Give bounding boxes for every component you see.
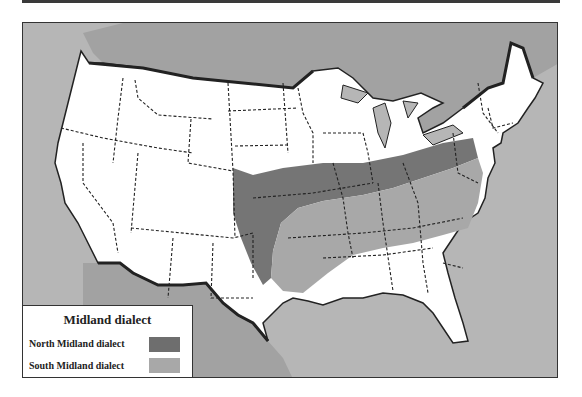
top-rule: [22, 0, 560, 3]
legend-swatch-north-midland: [149, 337, 180, 352]
legend-title: Midland dialect: [23, 312, 192, 328]
legend-label-north-midland: North Midland dialect: [29, 338, 125, 349]
legend: Midland dialect North Midland dialect So…: [22, 305, 193, 378]
legend-swatch-south-midland: [149, 358, 180, 373]
legend-label-south-midland: South Midland dialect: [29, 360, 124, 371]
